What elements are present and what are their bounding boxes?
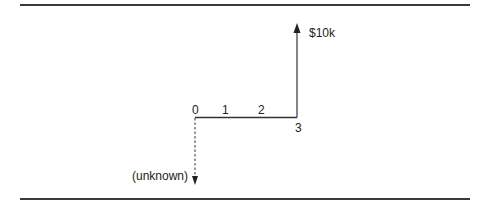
period-label-0: 0 bbox=[192, 104, 199, 116]
period-label-3: 3 bbox=[295, 122, 302, 134]
period-label-1: 1 bbox=[222, 104, 229, 116]
down-arrow-icon bbox=[192, 176, 198, 185]
up-arrow-icon bbox=[294, 23, 301, 33]
cash-flow-diagram bbox=[0, 0, 487, 203]
inflow-label: $10k bbox=[309, 27, 335, 39]
outflow-label: (unknown) bbox=[132, 170, 188, 182]
period-label-2: 2 bbox=[258, 104, 265, 116]
